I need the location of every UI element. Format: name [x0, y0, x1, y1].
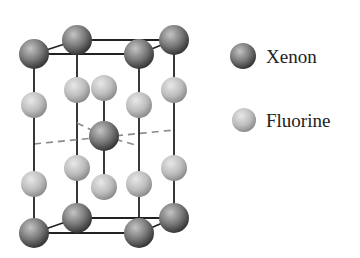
xenon-swatch-icon [230, 43, 256, 69]
fluorine-atom [91, 174, 117, 200]
fluorine-atom [161, 77, 187, 103]
xenon-atom-center [89, 121, 119, 151]
legend-item-fluorine: Fluorine [232, 108, 330, 132]
xenon-atom [124, 218, 154, 248]
legend-label-xenon: Xenon [266, 46, 317, 67]
fluorine-atom [21, 92, 47, 118]
fluorine-atom [64, 77, 90, 103]
xenon-atom [62, 25, 92, 55]
fluorine-atom [126, 171, 152, 197]
xenon-atom [19, 218, 49, 248]
legend-item-xenon: Xenon [230, 43, 317, 69]
center-atoms [89, 75, 119, 200]
xenon-atom [19, 39, 49, 69]
xenon-atom [159, 203, 189, 233]
fluorine-atom [64, 155, 90, 181]
front-edges [34, 54, 139, 233]
fluorine-atom [21, 171, 47, 197]
fluorine-swatch-icon [232, 108, 256, 132]
legend-label-fluorine: Fluorine [266, 110, 330, 131]
fluorine-atom [91, 75, 117, 101]
fluorine-atom [126, 92, 152, 118]
xenon-atom [124, 39, 154, 69]
xenon-atom [62, 203, 92, 233]
xef2-unit-cell-diagram: Xenon Fluorine [0, 0, 360, 258]
xenon-atom [159, 25, 189, 55]
legend: Xenon Fluorine [230, 43, 330, 132]
fluorine-atom [161, 155, 187, 181]
